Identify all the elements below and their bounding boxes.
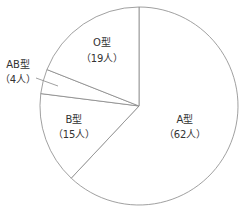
pie-chart: O型 （19人） AB型 （4人） B型 （15人） A型 （62人） [0, 0, 243, 214]
slice-value-ab: （4人） [0, 74, 36, 85]
slice-label-o: O型 [93, 36, 111, 48]
pie-slices [40, 7, 238, 205]
slice-value-o: （19人） [81, 53, 124, 64]
slice-value-a: （62人） [164, 129, 207, 140]
slice-label-a: A型 [177, 113, 194, 125]
slice-value-b: （15人） [53, 129, 96, 140]
slice-label-ab: AB型 [6, 58, 30, 70]
slice-label-b: B型 [66, 113, 83, 125]
